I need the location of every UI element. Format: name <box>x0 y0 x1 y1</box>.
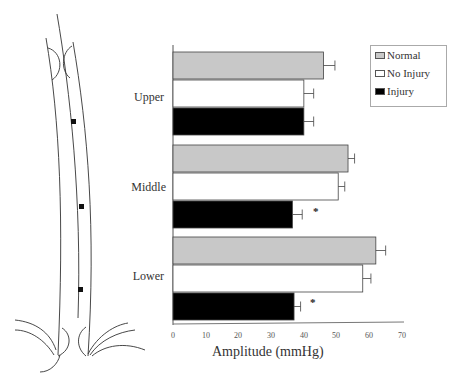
category-label-upper: Upper <box>104 90 164 105</box>
bar-middle-no-injury <box>173 173 338 200</box>
bar-lower-normal <box>173 237 376 264</box>
bar-middle-injury <box>173 201 292 228</box>
legend-label-injury: Injury <box>387 85 414 97</box>
x-tick-30: 30 <box>267 331 275 340</box>
bar-lower-no-injury <box>173 265 363 292</box>
legend-item-normal: Normal <box>371 46 446 64</box>
x-axis-line <box>173 322 404 324</box>
x-tick-40: 40 <box>300 331 308 340</box>
bar-middle-normal <box>173 145 348 172</box>
x-tick-60: 60 <box>365 331 373 340</box>
x-tick-50: 50 <box>332 331 340 340</box>
legend-label-no-injury: No Injury <box>387 67 430 79</box>
bar-upper-injury <box>173 108 304 135</box>
legend-item-injury: Injury <box>371 82 446 100</box>
category-label-lower: Lower <box>104 269 164 284</box>
x-axis-title: Amplitude (mmHg) <box>212 344 324 360</box>
significance-star-middle: * <box>313 205 319 217</box>
legend-swatch-no-injury <box>375 70 385 77</box>
legend: Normal No Injury Injury <box>370 45 447 107</box>
bar-upper-normal <box>173 52 323 79</box>
x-tick-20: 20 <box>234 331 242 340</box>
legend-label-normal: Normal <box>387 49 421 61</box>
bar-upper-no-injury <box>173 80 304 107</box>
legend-swatch-injury <box>375 88 385 95</box>
x-tick-70: 70 <box>398 331 406 340</box>
x-tick-10: 10 <box>202 331 210 340</box>
legend-swatch-normal <box>375 52 385 59</box>
category-label-middle: Middle <box>106 180 166 195</box>
significance-star-lower: * <box>310 296 316 308</box>
x-tick-0: 0 <box>171 331 175 340</box>
legend-item-no-injury: No Injury <box>371 64 446 82</box>
bar-lower-injury <box>173 293 294 320</box>
